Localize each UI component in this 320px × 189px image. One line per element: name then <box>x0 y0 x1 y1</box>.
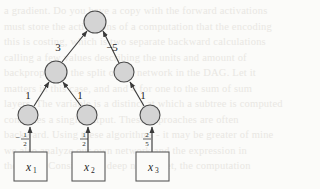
input-box-x1-label: x <box>25 161 32 173</box>
fraction-denominator-x1: 2 <box>23 140 27 148</box>
edge-label-x1-to-leaf-1: − 1 2 <box>15 131 29 148</box>
fraction-sign-x1: − <box>15 133 20 142</box>
input-box-x3-label: x <box>147 161 154 173</box>
leaf-node-1[interactable] <box>18 105 38 125</box>
mid-left-node[interactable] <box>45 61 67 83</box>
edge-leaf-1-to-mid-left-line <box>34 82 49 106</box>
diagram-page: a gradient. Do you have a copy with the … <box>0 0 320 189</box>
edge-label-leaf-1-to-mid-left: 1 <box>25 89 31 101</box>
fraction-denominator-x3: 5 <box>145 140 149 148</box>
input-box-x2-label: x <box>83 161 90 173</box>
root-node[interactable] <box>84 11 106 33</box>
leaf-node-3[interactable] <box>140 105 160 125</box>
edge-mid-left-to-root-line <box>62 31 87 62</box>
fraction-denominator-x2: 2 <box>82 140 86 148</box>
input-box-x2-subscript: 2 <box>91 166 95 175</box>
edge-label-x2-to-leaf-2: 1 2 <box>80 131 88 148</box>
edge-label-mid-left-to-root: 3 <box>55 41 61 53</box>
input-box-x1-subscript: 1 <box>33 166 37 175</box>
edge-label-mid-right-to-root: −5 <box>106 41 118 53</box>
fraction-numerator-x1: 1 <box>23 131 27 139</box>
fraction-numerator-x2: 1 <box>82 131 86 139</box>
leaf-node-2[interactable] <box>77 105 97 125</box>
edge-label-x3-to-leaf-3: 2 5 <box>143 131 151 148</box>
edge-label-leaf-3-to-mid-right: 1 <box>140 89 146 101</box>
computational-graph: 3 −5 1 1 1 − 1 2 1 2 2 5 x 1 x 2 <box>0 0 320 189</box>
fraction-numerator-x3: 2 <box>145 131 149 139</box>
edge-label-leaf-2-to-mid-left: 1 <box>77 89 83 101</box>
input-box-x3-subscript: 3 <box>155 166 159 175</box>
mid-right-node[interactable] <box>114 62 134 82</box>
